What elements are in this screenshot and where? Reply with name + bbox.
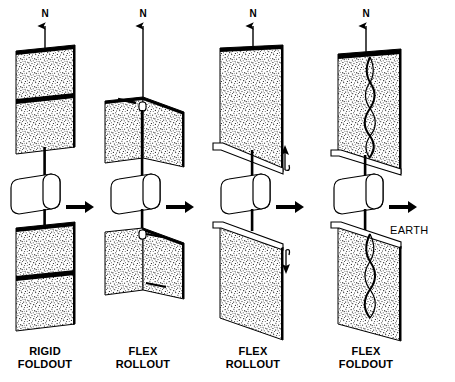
north-label: N bbox=[249, 8, 256, 19]
mast-segment bbox=[141, 110, 144, 177]
mast-segment bbox=[364, 155, 367, 177]
config-label-line1: FLEX bbox=[352, 345, 381, 357]
diagram-canvas: N RIGID FOLDOUT bbox=[0, 0, 455, 382]
mast-lower-4 bbox=[364, 209, 367, 230]
solar-array-configurations-figure: N RIGID FOLDOUT bbox=[0, 0, 455, 382]
roller-drum bbox=[139, 102, 146, 111]
lower-panel-left-face bbox=[105, 228, 143, 295]
north-label: N bbox=[41, 8, 48, 19]
lower-array-flex-rollout-1 bbox=[105, 228, 184, 299]
upper-panel-right-edge bbox=[182, 112, 184, 167]
config-label-line1: FLEX bbox=[239, 345, 268, 357]
lower-panel-right-edge bbox=[182, 243, 184, 299]
config-label-line2: FOLDOUT bbox=[18, 358, 73, 370]
config-label-line1: RIGID bbox=[29, 345, 61, 357]
upper-panel-left-face bbox=[105, 97, 143, 163]
mast-segment bbox=[43, 147, 46, 177]
cylinder-end-cap bbox=[253, 174, 270, 209]
spacecraft-body-4 bbox=[334, 174, 383, 214]
lower-panel-right-edge bbox=[281, 247, 283, 340]
cylinder-end-cap bbox=[143, 174, 160, 209]
spacecraft-body-1 bbox=[11, 174, 60, 214]
mast-upper-1 bbox=[43, 147, 46, 177]
config-label-line2: ROLLOUT bbox=[116, 358, 171, 370]
earth-label: EARTH bbox=[390, 224, 429, 236]
config-label-line1: FLEX bbox=[129, 345, 158, 357]
cylinder-end-cap bbox=[43, 174, 60, 209]
spacecraft-body-3 bbox=[221, 174, 270, 214]
upper-panel-right-edge bbox=[399, 49, 401, 174]
config-label-line2: FOLDOUT bbox=[339, 358, 394, 370]
north-label: N bbox=[139, 8, 146, 19]
roller-drum bbox=[139, 230, 146, 239]
north-label: N bbox=[362, 8, 369, 19]
mast-upper-4 bbox=[364, 155, 367, 177]
mast-lower-3 bbox=[251, 209, 254, 231]
mast-segment bbox=[364, 209, 367, 230]
mast-upper-2 bbox=[141, 110, 144, 177]
upper-array-flex-rollout-1 bbox=[105, 97, 184, 167]
mast-upper-3 bbox=[251, 150, 254, 177]
upper-array-rigid-foldout bbox=[16, 45, 75, 154]
lower-panel-right-edge bbox=[399, 246, 401, 341]
lower-array-flex-foldout bbox=[331, 222, 401, 341]
spacecraft-body-2 bbox=[111, 174, 160, 214]
cylinder-end-cap bbox=[366, 174, 383, 209]
mast-segment bbox=[251, 150, 254, 177]
lower-array-rigid-foldout bbox=[16, 222, 75, 331]
mast-segment bbox=[251, 209, 254, 231]
config-label-line2: ROLLOUT bbox=[226, 358, 281, 370]
